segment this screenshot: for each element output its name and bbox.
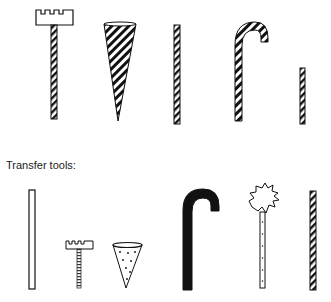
tuft-head-stick bbox=[249, 183, 279, 288]
castle-head-striped-stick bbox=[36, 10, 73, 119]
dotted-cone-rim bbox=[113, 243, 142, 248]
cone-rim bbox=[104, 22, 136, 26]
striped-cane bbox=[235, 22, 268, 121]
plain-stick bbox=[29, 190, 35, 289]
dotted-shaft bbox=[260, 212, 265, 288]
section-label-transfer-tools: Transfer tools: bbox=[6, 159, 76, 171]
striped-stick-long bbox=[174, 25, 180, 124]
striped-stick-short bbox=[300, 68, 305, 124]
small-castle-head bbox=[66, 241, 93, 249]
spiky-tuft bbox=[249, 183, 279, 213]
dotted-cone bbox=[113, 243, 142, 289]
ribbed-shaft bbox=[77, 249, 81, 288]
castle-head-ribbed-stick bbox=[66, 241, 93, 288]
tools-diagram bbox=[0, 0, 331, 302]
solid-black-cane bbox=[183, 189, 219, 290]
striped-stick-bottom bbox=[310, 191, 316, 290]
castle-head-block bbox=[36, 10, 73, 25]
striped-shaft bbox=[51, 25, 57, 119]
striped-cone bbox=[104, 22, 136, 121]
